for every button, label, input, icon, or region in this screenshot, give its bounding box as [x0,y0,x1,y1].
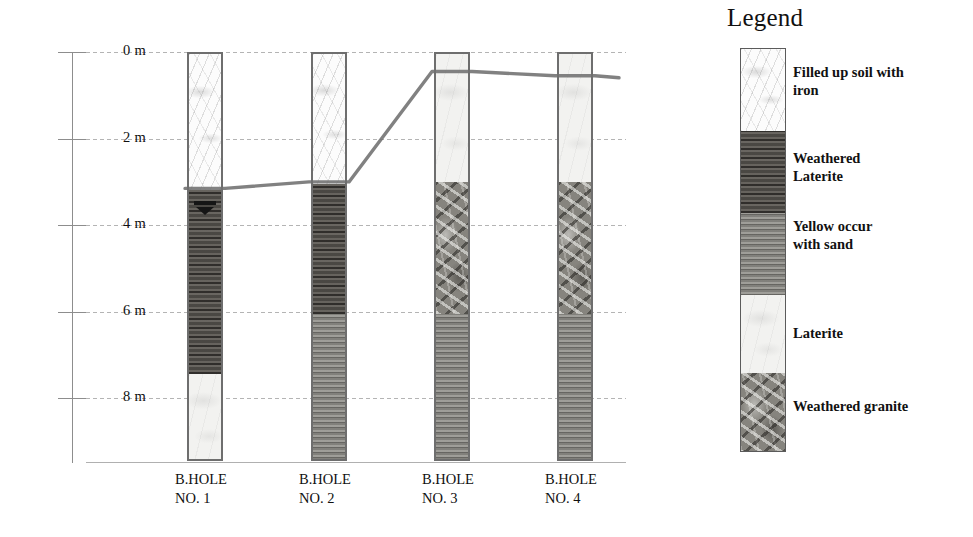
legend-label-0: Filled up soil withiron [793,64,973,99]
axis-tick-6m [58,312,86,313]
borehole-caption-line2: NO. 4 [545,489,655,508]
axis-baseline [86,462,626,463]
legend-swatch-yellow-sand [741,213,785,295]
layer-weathered-laterite [189,190,221,374]
borehole-section-figure: 0 m2 m4 m6 m8 m B.HOLENO. 1B.HOLENO. 2B.… [0,0,973,537]
borehole-column-2 [311,52,347,461]
legend-swatch-weathered-granite [741,373,785,452]
layer-filled-soil-iron [313,54,345,184]
layer-laterite [189,374,221,461]
axis-label-6m: 6 m [90,302,146,319]
layer-filled-soil-iron [189,54,221,190]
legend-swatch-filled-soil-iron [741,49,785,131]
borehole-caption-1: B.HOLENO. 1 [175,470,285,508]
layer-laterite [559,54,591,182]
axis-tick-4m [58,225,86,226]
legend-label-line2: with sand [793,236,973,254]
water-table-triangle [196,207,214,215]
layer-weathered-granite [559,182,591,314]
depth-axis-line [72,52,73,463]
gridline-8m [86,398,626,399]
borehole-caption-line2: NO. 1 [175,489,285,508]
borehole-caption-3: B.HOLENO. 3 [422,470,532,508]
water-table-bar [194,201,216,205]
borehole-caption-4: B.HOLENO. 4 [545,470,655,508]
legend-label-4: Weathered granite [793,398,973,416]
axis-label-4m: 4 m [90,215,146,232]
gridline-0m [86,52,626,53]
borehole-caption-line1: B.HOLE [422,470,532,489]
legend-label-3: Laterite [793,325,973,343]
borehole-caption-line1: B.HOLE [175,470,285,489]
legend-label-2: Yellow occurwith sand [793,218,973,253]
layer-laterite [436,54,468,182]
borehole-column-1 [187,52,223,461]
borehole-caption-2: B.HOLENO. 2 [299,470,409,508]
legend-column [740,48,786,452]
legend-label-line1: Weathered [793,150,973,168]
layer-yellow-sand [559,314,591,461]
borehole-caption-line1: B.HOLE [299,470,409,489]
water-table-icon [194,201,216,215]
borehole-caption-line2: NO. 2 [299,489,409,508]
axis-label-8m: 8 m [90,388,146,405]
legend-title: Legend [727,4,803,32]
legend-label-line1: Filled up soil with [793,64,973,82]
gridline-4m [86,225,626,226]
legend-label-line1: Weathered granite [793,398,973,416]
layer-yellow-sand [313,314,345,461]
legend-label-line2: iron [793,82,973,100]
legend-label-1: WeatheredLaterite [793,150,973,185]
axis-label-0m: 0 m [90,42,146,59]
borehole-column-3 [434,52,470,461]
legend-swatch-weathered-laterite [741,131,785,213]
axis-tick-2m [58,139,86,140]
layer-yellow-sand [436,314,468,461]
axis-tick-8m [58,398,86,399]
axis-label-2m: 2 m [90,129,146,146]
layer-weathered-laterite [313,184,345,314]
legend-label-line2: Laterite [793,168,973,186]
borehole-column-4 [557,52,593,461]
legend-swatch-laterite [741,295,785,373]
layer-weathered-granite [436,182,468,314]
borehole-caption-line1: B.HOLE [545,470,655,489]
legend-label-line1: Yellow occur [793,218,973,236]
borehole-caption-line2: NO. 3 [422,489,532,508]
gridline-2m [86,139,626,140]
axis-tick-0m [58,52,86,53]
gridline-6m [86,312,626,313]
legend-label-line1: Laterite [793,325,973,343]
